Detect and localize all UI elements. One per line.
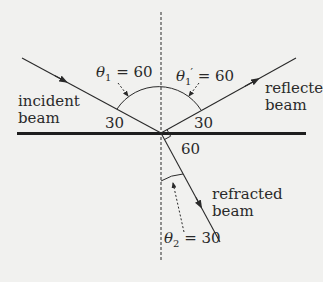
- theta2-symbol: θ: [164, 229, 173, 247]
- refraction-diagram: θ1 = 60 θ1′ = 60 θ2 = 30 incident beam r…: [0, 0, 323, 282]
- theta1-value: = 60: [111, 63, 152, 81]
- reflected-beam-arrow-icon: [245, 80, 256, 86]
- refracted-beam-arrow-icon: [196, 198, 200, 205]
- theta2-value: = 30: [179, 229, 220, 247]
- incident-beam-arrow-icon: [55, 76, 64, 81]
- theta1-symbol: θ: [96, 63, 105, 81]
- refracted-beam-label: refracted beam: [212, 186, 272, 220]
- theta1prime-symbol: θ: [176, 67, 185, 85]
- theta1prime-value: = 60: [193, 67, 234, 85]
- refraction-angle-arc: [161, 174, 183, 181]
- theta1-label: θ1 = 60: [96, 64, 153, 86]
- incident-surface-angle-label: 30: [105, 115, 124, 132]
- refracted-surface-angle-label: 60: [181, 141, 200, 158]
- reflected-surface-angle-label: 30: [194, 115, 213, 132]
- theta1prime-label: θ1′ = 60: [176, 64, 234, 90]
- theta2-pointer-arrow-icon: [173, 183, 184, 232]
- diagram-graphics: [0, 0, 323, 282]
- theta2-label: θ2 = 30: [164, 230, 221, 252]
- incident-beam-label: incident beam: [18, 93, 78, 127]
- reflected-beam-label: reflected beam: [265, 80, 320, 114]
- incidence-reflection-arc: [117, 87, 201, 110]
